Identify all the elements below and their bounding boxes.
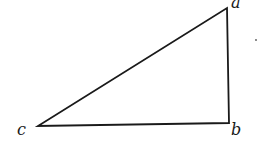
triangle-diagram: a b c — [0, 0, 258, 141]
stray-dot — [255, 39, 257, 41]
vertex-label-c: c — [17, 120, 26, 139]
triangle-abc — [38, 8, 229, 126]
vertex-label-b: b — [231, 120, 241, 139]
vertex-label-a: a — [231, 0, 241, 12]
